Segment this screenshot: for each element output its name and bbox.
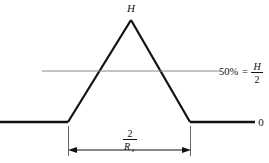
pulse-waveform-diagram: H 0 50% = H 2 2 R s: [0, 0, 269, 163]
half-level-numerator-label: H: [252, 61, 261, 72]
figure-canvas: H 0 50% = H 2 2 R s: [0, 0, 269, 163]
base-width-denominator-label: R: [123, 141, 130, 152]
half-level-percent-label: 50%: [219, 66, 239, 77]
arrowhead-left-icon: [68, 147, 77, 153]
arrowhead-right-icon: [182, 147, 191, 153]
peak-amplitude-label: H: [126, 2, 136, 14]
baseline-zero-label: 0: [258, 116, 264, 128]
half-level-denominator-label: 2: [255, 74, 260, 85]
base-width-numerator-label: 2: [128, 128, 133, 139]
half-level-equals-sign: =: [242, 66, 248, 77]
